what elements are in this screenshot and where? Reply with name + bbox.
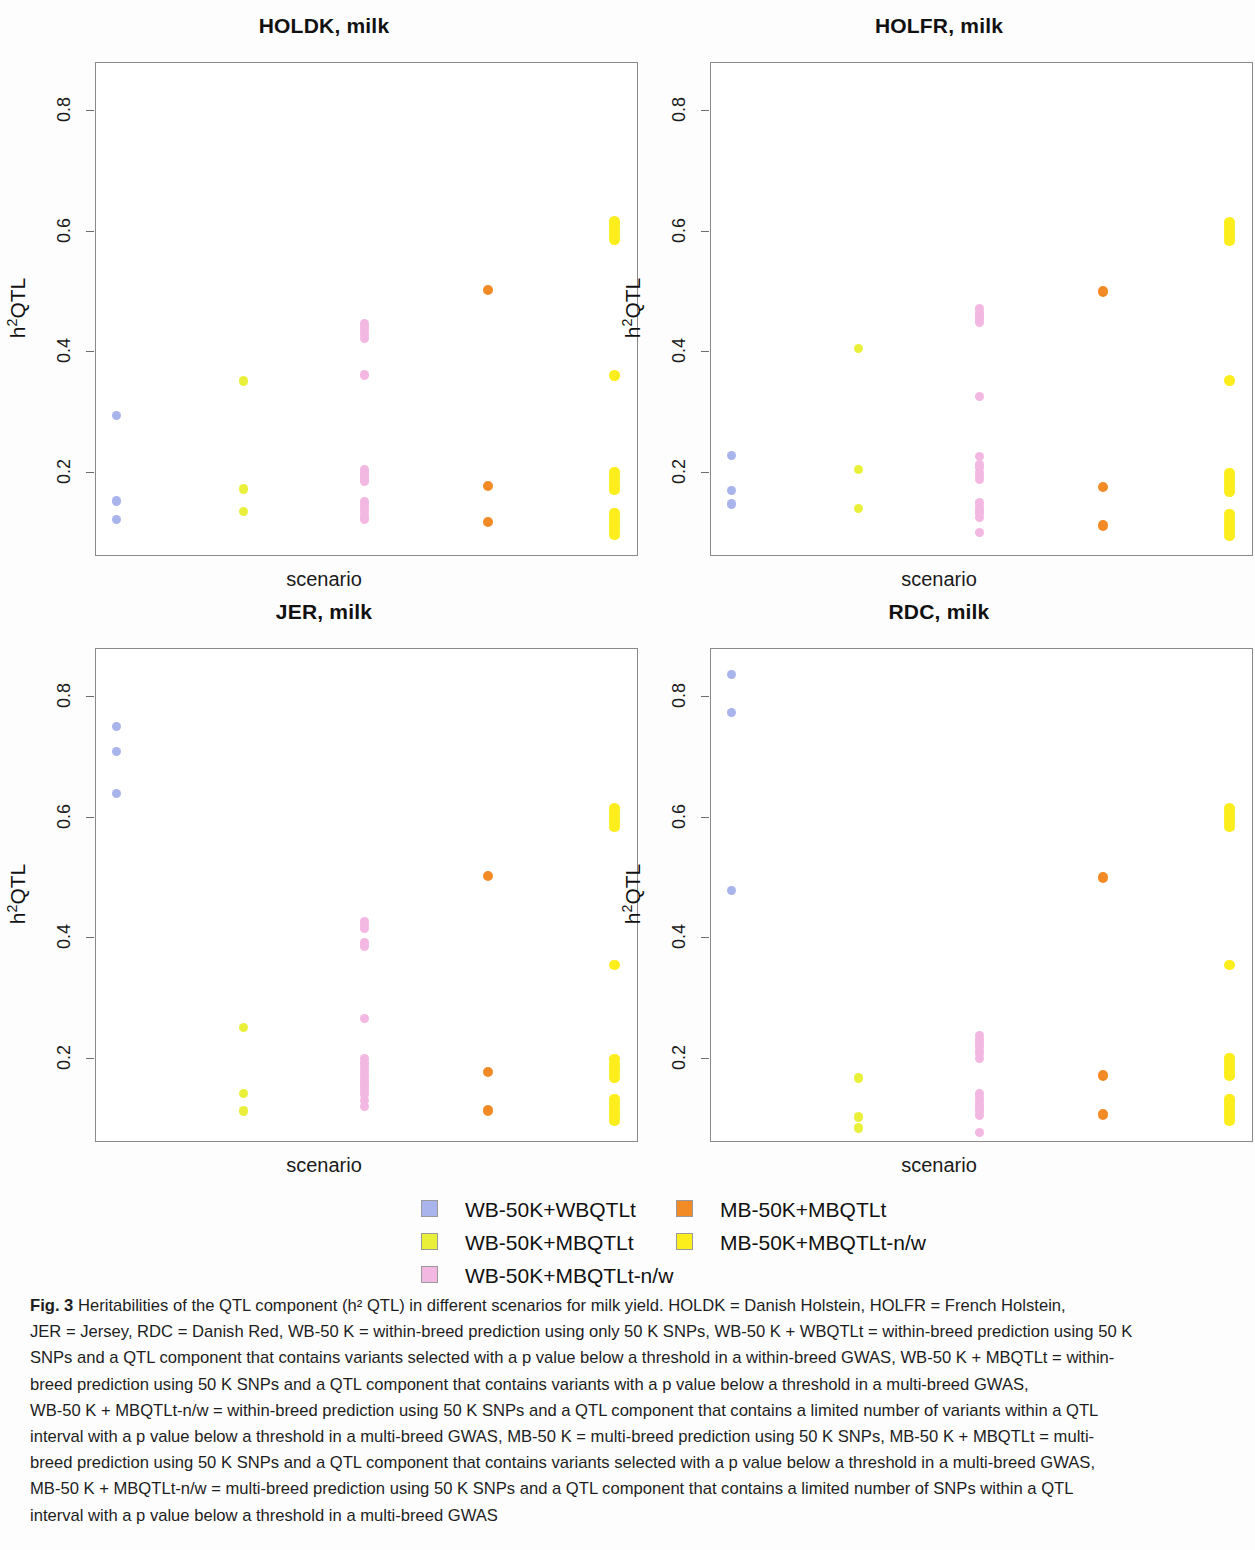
plot-area [710, 648, 1253, 1142]
legend-swatch-icon [421, 1233, 438, 1250]
data-point [360, 1014, 369, 1023]
data-point [854, 344, 863, 353]
caption-line: JER = Jersey, RDC = Danish Red, WB-50 K … [30, 1319, 1226, 1345]
data-point [112, 515, 121, 524]
data-point [609, 1072, 619, 1082]
panel-title: HOLFR, milk [625, 14, 1253, 38]
y-axis-label: h2QTL [619, 834, 645, 954]
data-point [360, 1102, 369, 1111]
figure-legend: WB-50K+WBQTLtWB-50K+MBQTLtWB-50K+MBQTLt-… [0, 1185, 1255, 1285]
y-axis-tick [86, 351, 94, 352]
y-axis-tick [701, 110, 709, 111]
panel-title: HOLDK, milk [10, 14, 638, 38]
data-point [1224, 1071, 1234, 1081]
y-axis-tick-label: 0.6 [54, 786, 75, 846]
data-point [112, 789, 121, 798]
data-point [1098, 482, 1108, 492]
plot-area [95, 62, 638, 556]
figure-container: HOLDK, milkh2QTL0.20.40.60.8scenarioHOLF… [0, 0, 1255, 1550]
chart-panel: RDC, milkh2QTL0.20.40.60.8scenario [625, 594, 1255, 1180]
data-point [975, 1128, 984, 1137]
data-point [727, 486, 736, 495]
data-point [727, 708, 736, 717]
data-point [975, 513, 984, 522]
chart-panel: HOLFR, milkh2QTL0.20.40.60.8scenario [625, 8, 1255, 594]
data-point [239, 484, 248, 493]
data-point [727, 451, 736, 460]
data-point [854, 1073, 863, 1082]
y-axis-tick [86, 1058, 94, 1059]
y-axis-tick [701, 696, 709, 697]
data-point [1098, 1070, 1108, 1080]
data-point [112, 747, 121, 756]
y-axis-tick-label: 0.2 [54, 441, 75, 501]
data-point [609, 370, 619, 380]
data-point [360, 476, 369, 485]
y-axis-tick-label: 0.4 [669, 907, 690, 967]
legend-swatch-icon [676, 1233, 693, 1250]
legend-label: WB-50K+MBQTLt [465, 1226, 634, 1259]
data-point [975, 318, 984, 327]
y-axis-tick-label: 0.2 [54, 1027, 75, 1087]
y-axis-tick-label: 0.8 [54, 666, 75, 726]
y-axis-tick [86, 696, 94, 697]
y-axis-tick [701, 231, 709, 232]
data-point [609, 1116, 619, 1126]
panel-title: JER, milk [10, 600, 638, 624]
legend-label: MB-50K+MBQTLt [720, 1193, 886, 1226]
data-point [975, 475, 984, 484]
y-axis-tick-label: 0.6 [669, 786, 690, 846]
caption-line: interval with a p value below a threshol… [30, 1424, 1226, 1450]
caption-line: MB-50 K + MBQTLt-n/w = multi-breed predi… [30, 1476, 1226, 1502]
data-point [1224, 822, 1234, 832]
y-axis-tick [86, 937, 94, 938]
data-point [360, 370, 369, 379]
data-point [975, 392, 984, 401]
data-point [483, 481, 493, 491]
y-axis-tick-label: 0.2 [669, 1027, 690, 1087]
y-axis-tick [701, 937, 709, 938]
plot-area [95, 648, 638, 1142]
y-axis-tick-label: 0.4 [54, 907, 75, 967]
data-point [609, 822, 619, 832]
data-point [609, 485, 619, 495]
y-axis-label: h2QTL [4, 248, 30, 368]
data-point [609, 960, 619, 970]
y-axis-tick-label: 0.8 [669, 80, 690, 140]
data-point [360, 334, 369, 343]
y-axis-tick [86, 231, 94, 232]
data-point [1224, 375, 1234, 385]
y-axis-tick [701, 351, 709, 352]
data-point [112, 411, 121, 420]
data-point [854, 465, 863, 474]
y-axis-tick [86, 472, 94, 473]
caption-line: breed prediction using 50 K SNPs and a Q… [30, 1372, 1226, 1398]
data-point [609, 530, 619, 540]
caption-line: SNPs and a QTL component that contains v… [30, 1345, 1226, 1371]
data-point [483, 1067, 493, 1077]
figure-label: Fig. 3 [30, 1296, 73, 1315]
y-axis-tick-label: 0.8 [669, 666, 690, 726]
y-axis-tick-label: 0.4 [54, 321, 75, 381]
data-point [1098, 1109, 1108, 1119]
x-axis-label: scenario [10, 1154, 638, 1177]
data-point [239, 507, 248, 516]
y-axis-tick-label: 0.8 [54, 80, 75, 140]
data-point [1098, 872, 1108, 882]
panel-grid: HOLDK, milkh2QTL0.20.40.60.8scenarioHOLF… [0, 0, 1255, 1180]
data-point [1224, 1116, 1234, 1126]
data-point [975, 528, 984, 537]
data-point [1224, 236, 1234, 246]
caption-line: breed prediction using 50 K SNPs and a Q… [30, 1450, 1226, 1476]
data-point [1224, 486, 1234, 496]
data-point [1224, 960, 1234, 970]
data-point [609, 234, 619, 244]
data-point [483, 871, 493, 881]
data-point [854, 1112, 863, 1121]
data-point [360, 924, 369, 933]
data-point [727, 886, 736, 895]
y-axis-tick [701, 472, 709, 473]
y-axis-tick [86, 817, 94, 818]
data-point [975, 1054, 984, 1063]
y-axis-tick [701, 1058, 709, 1059]
